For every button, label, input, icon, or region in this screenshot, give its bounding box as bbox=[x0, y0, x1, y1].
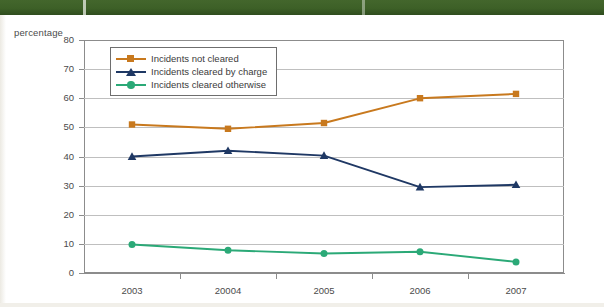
legend-item: Incidents cleared by charge bbox=[116, 65, 267, 78]
data-point-circle bbox=[417, 248, 424, 255]
chart-legend: Incidents not cleared Incidents cleared … bbox=[110, 47, 277, 96]
legend-marker-circle-icon bbox=[116, 79, 146, 90]
data-point-circle bbox=[225, 247, 232, 254]
data-point-square bbox=[321, 120, 327, 126]
legend-item-label: Incidents cleared by charge bbox=[151, 65, 267, 78]
legend-item: Incidents cleared otherwise bbox=[116, 78, 267, 91]
data-point-circle bbox=[129, 241, 136, 248]
legend-marker-square-icon bbox=[116, 53, 146, 64]
data-point-square bbox=[513, 91, 519, 97]
data-point-square bbox=[129, 121, 135, 127]
data-point-circle bbox=[321, 250, 328, 257]
data-point-square bbox=[225, 126, 231, 132]
legend-marker-triangle-icon bbox=[116, 66, 146, 77]
data-point-square bbox=[417, 95, 423, 101]
legend-item-label: Incidents cleared otherwise bbox=[151, 78, 266, 91]
data-point-circle bbox=[513, 258, 520, 265]
series-layer bbox=[0, 0, 604, 307]
legend-item: Incidents not cleared bbox=[116, 52, 267, 65]
legend-item-label: Incidents not cleared bbox=[151, 52, 239, 65]
